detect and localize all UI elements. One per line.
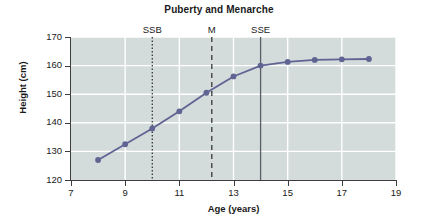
data-point — [204, 90, 210, 96]
x-tick-label: 15 — [273, 187, 303, 198]
y-tick-label: 120 — [18, 174, 62, 185]
data-point — [339, 56, 345, 62]
y-tick-mark — [65, 94, 70, 95]
event-label-sse: SSE — [231, 24, 291, 35]
x-tick-mark — [125, 181, 126, 186]
y-axis-title: Height (cm) — [17, 38, 28, 138]
data-point — [176, 108, 182, 114]
y-tick-label: 130 — [18, 145, 62, 156]
x-tick-mark — [234, 181, 235, 186]
x-tick-mark — [71, 181, 72, 186]
data-point — [231, 74, 237, 80]
plot-area — [71, 37, 396, 180]
plot-svg — [71, 37, 396, 180]
x-tick-label: 7 — [56, 187, 86, 198]
x-tick-label: 17 — [327, 187, 357, 198]
data-point — [258, 63, 264, 69]
y-tick-mark — [65, 180, 70, 181]
x-tick-mark — [179, 181, 180, 186]
x-tick-label: 19 — [381, 187, 411, 198]
x-tick-label: 9 — [110, 187, 140, 198]
x-axis-title: Age (years) — [71, 203, 396, 214]
y-tick-mark — [65, 123, 70, 124]
data-point — [285, 59, 291, 65]
data-point — [149, 126, 155, 132]
data-point — [95, 157, 101, 163]
y-tick-mark — [65, 66, 70, 67]
x-tick-mark — [396, 181, 397, 186]
data-point — [122, 141, 128, 147]
data-point — [312, 57, 318, 63]
chart-title: Puberty and Menarche — [0, 4, 438, 15]
y-tick-mark — [65, 151, 70, 152]
x-tick-mark — [288, 181, 289, 186]
chart-figure: Puberty and Menarche 120130140150160170 … — [0, 0, 438, 224]
x-tick-label: 13 — [219, 187, 249, 198]
x-tick-label: 11 — [164, 187, 194, 198]
data-point — [366, 56, 372, 62]
event-label-ssb: SSB — [122, 24, 182, 35]
x-tick-mark — [342, 181, 343, 186]
y-tick-mark — [65, 37, 70, 38]
